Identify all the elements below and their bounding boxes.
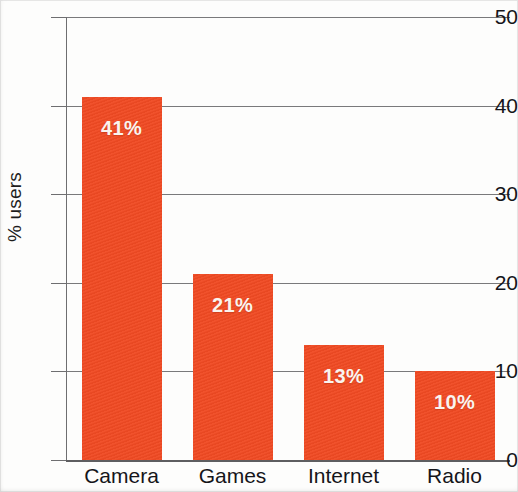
y-axis-tick bbox=[51, 106, 66, 107]
y-axis-title: % users bbox=[4, 152, 26, 262]
y-axis-tick bbox=[51, 17, 66, 18]
bar-value-label: 21% bbox=[193, 294, 273, 317]
x-axis-tick-label: Internet bbox=[288, 464, 399, 488]
bar bbox=[415, 371, 495, 460]
gridline bbox=[66, 17, 510, 18]
x-axis-line bbox=[66, 460, 510, 462]
y-axis-tick bbox=[51, 283, 66, 284]
y-axis-tick-label: 50 bbox=[474, 6, 518, 27]
bar-value-label: 10% bbox=[415, 391, 495, 414]
y-axis-tick bbox=[51, 371, 66, 372]
bar bbox=[304, 345, 384, 460]
bar-value-label: 13% bbox=[304, 365, 384, 388]
x-axis-tick-label: Camera bbox=[66, 464, 177, 488]
y-axis-tick-label: 20 bbox=[474, 272, 518, 293]
bar bbox=[82, 97, 162, 460]
y-axis-tick-label: 40 bbox=[474, 95, 518, 116]
bar-value-label: 41% bbox=[82, 117, 162, 140]
bar-chart: % users 50403020100 41%21%13%10% CameraG… bbox=[0, 0, 518, 492]
y-axis-tick-label: 30 bbox=[474, 183, 518, 204]
y-axis-tick bbox=[51, 194, 66, 195]
x-axis-tick-label: Games bbox=[177, 464, 288, 488]
y-axis-tick bbox=[51, 460, 66, 461]
x-axis-tick-label: Radio bbox=[399, 464, 510, 488]
